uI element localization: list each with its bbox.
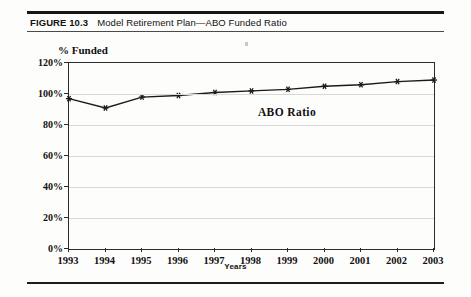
scan-speck xyxy=(245,42,248,46)
x-tick-mark xyxy=(360,248,361,252)
data-point-marker xyxy=(102,105,108,110)
y-tick-label: 100% xyxy=(19,88,63,99)
caption-rule-top xyxy=(27,11,444,14)
y-tick-mark xyxy=(64,155,68,156)
page-rule-bottom xyxy=(27,282,444,284)
x-tick-mark xyxy=(214,248,215,252)
data-point-marker xyxy=(248,88,254,93)
y-tick-label: 120% xyxy=(19,57,63,68)
y-tick-label: 60% xyxy=(19,150,63,161)
y-tick-mark xyxy=(64,186,68,187)
y-tick-mark xyxy=(64,124,68,125)
y-axis-title: % Funded xyxy=(58,44,108,56)
plot-area xyxy=(68,62,435,250)
gridline xyxy=(69,94,434,95)
data-point-marker xyxy=(431,77,437,82)
x-tick-mark xyxy=(433,248,434,252)
x-tick-mark xyxy=(105,248,106,252)
data-point-marker xyxy=(394,79,400,84)
x-tick-mark xyxy=(141,248,142,252)
x-tick-mark xyxy=(324,248,325,252)
gridline xyxy=(69,218,434,219)
figure-title: Model Retirement Plan—ABO Funded Ratio xyxy=(97,17,287,28)
chart-container: % Funded 0%20%40%60%80%100%120% 19931994… xyxy=(0,36,471,268)
gridline xyxy=(69,156,434,157)
data-point-marker xyxy=(66,96,72,101)
y-tick-label: 40% xyxy=(19,181,63,192)
y-tick-mark xyxy=(64,62,68,63)
y-tick-mark xyxy=(64,217,68,218)
data-point-marker xyxy=(358,82,364,87)
caption-rule-bottom xyxy=(27,31,444,32)
x-tick-mark xyxy=(397,248,398,252)
y-tick-label: 20% xyxy=(19,212,63,223)
figure-page: FIGURE 10.3 Model Retirement Plan—ABO Fu… xyxy=(0,0,471,297)
figure-number: FIGURE 10.3 xyxy=(30,17,88,28)
y-tick-label: 0% xyxy=(19,243,63,254)
x-tick-mark xyxy=(287,248,288,252)
x-tick-mark xyxy=(178,248,179,252)
x-axis-title: Years xyxy=(0,262,471,271)
data-point-marker xyxy=(139,94,145,99)
y-tick-mark xyxy=(64,93,68,94)
x-tick-mark xyxy=(251,248,252,252)
data-point-marker xyxy=(321,84,327,89)
x-tick-mark xyxy=(68,248,69,252)
y-tick-label: 80% xyxy=(19,119,63,130)
gridline xyxy=(69,125,434,126)
data-point-marker xyxy=(285,87,291,92)
series-annotation-abo-ratio: ABO Ratio xyxy=(258,106,316,118)
figure-caption: FIGURE 10.3 Model Retirement Plan—ABO Fu… xyxy=(30,15,287,29)
gridline xyxy=(69,187,434,188)
